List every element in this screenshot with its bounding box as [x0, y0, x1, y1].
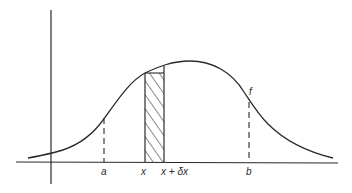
density-diagram: f a x x + δx b: [0, 0, 352, 193]
label-x: x: [140, 166, 147, 177]
label-x-plus-dx: x + δx: [160, 166, 189, 177]
label-b: b: [246, 166, 252, 177]
x-axis: [16, 162, 338, 163]
label-a: a: [101, 166, 107, 177]
density-curve: [28, 61, 333, 158]
hatched-strip: [145, 66, 164, 162]
curve-label-f: f: [249, 86, 253, 97]
